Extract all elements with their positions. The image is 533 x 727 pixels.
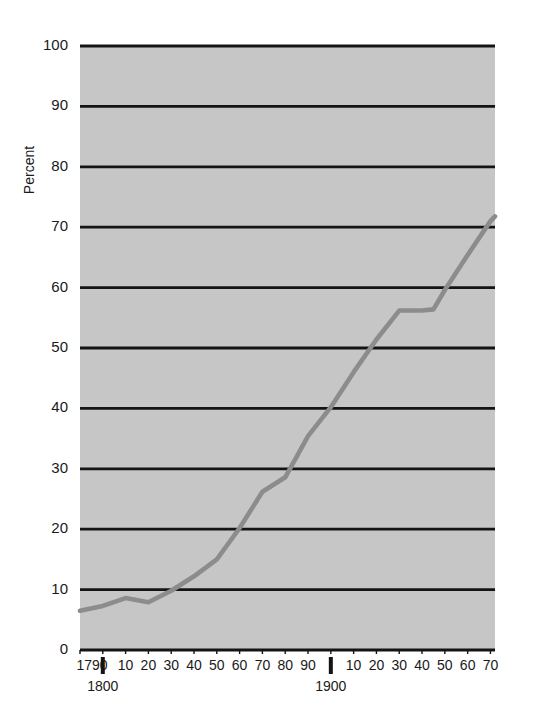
era-label-1900: 1900	[315, 678, 346, 694]
y-tick-label-40: 40	[51, 398, 68, 415]
y-tick-label-90: 90	[51, 96, 68, 113]
x-tick-label-1810: 10	[118, 657, 134, 673]
y-tick-label-80: 80	[51, 157, 68, 174]
x-tick-label-1830: 30	[163, 657, 179, 673]
x-tick-label-1940: 40	[414, 657, 430, 673]
y-axis-title: Percent	[21, 146, 37, 194]
x-tick-label-1930: 30	[391, 657, 407, 673]
era-marker-1800	[101, 657, 105, 674]
x-tick-label-1850: 50	[209, 657, 225, 673]
era-label-1800: 1800	[87, 678, 118, 694]
chart-container: 0102030405060708090100 17901020304050607…	[0, 0, 533, 727]
y-tick-label-60: 60	[51, 278, 68, 295]
x-tick-label-1820: 20	[141, 657, 157, 673]
x-tick-label-1870: 70	[255, 657, 271, 673]
y-tick-label-50: 50	[51, 338, 68, 355]
y-tick-label-70: 70	[51, 217, 68, 234]
x-tick-label-1840: 40	[186, 657, 202, 673]
y-tick-label-30: 30	[51, 459, 68, 476]
x-tick-label-1960: 60	[460, 657, 476, 673]
era-marker-1900	[329, 657, 333, 674]
x-tick-label-1860: 60	[232, 657, 248, 673]
line-chart: 0102030405060708090100 17901020304050607…	[0, 0, 533, 727]
x-tick-label-1910: 10	[346, 657, 362, 673]
y-tick-label-20: 20	[51, 519, 68, 536]
x-tick-label-1890: 90	[300, 657, 316, 673]
x-tick-label-1920: 20	[369, 657, 385, 673]
x-tick-label-1970: 70	[483, 657, 499, 673]
y-tick-label-10: 10	[51, 580, 68, 597]
y-tick-label-0: 0	[60, 640, 68, 657]
y-tick-label-100: 100	[43, 36, 68, 53]
x-tick-label-1880: 80	[277, 657, 293, 673]
x-tick-label-1950: 50	[437, 657, 453, 673]
